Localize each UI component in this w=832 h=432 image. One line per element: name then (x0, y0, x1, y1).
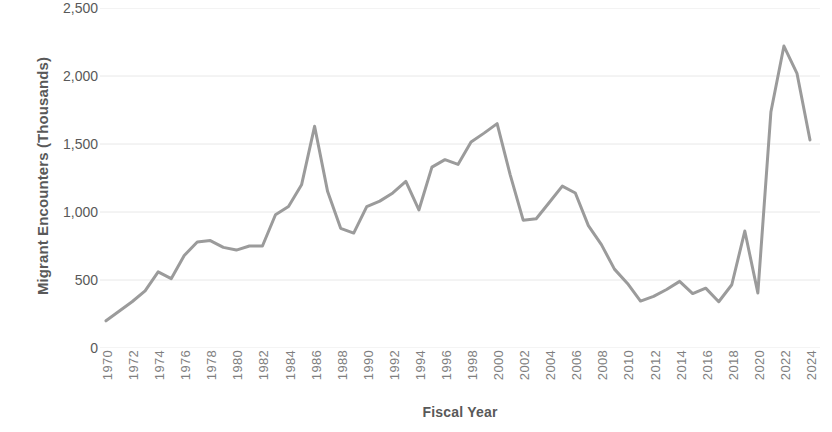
x-tick-label: 1988 (335, 350, 350, 380)
x-tick-label: 1978 (204, 350, 219, 380)
x-tick-label: 2002 (517, 350, 532, 380)
x-tick-label: 2024 (804, 350, 819, 380)
x-tick-label: 1998 (465, 350, 480, 380)
x-tick-label: 2000 (491, 350, 506, 380)
x-tick-label: 1972 (126, 350, 141, 380)
y-tick-label: 0 (28, 340, 98, 356)
x-tick-label: 1990 (361, 350, 376, 380)
y-axis-tick-labels: 05001,0001,5002,0002,500 (20, 0, 98, 432)
x-tick-label: 1984 (283, 350, 298, 380)
x-tick-label: 2006 (569, 350, 584, 380)
y-tick-label: 1,000 (28, 204, 98, 220)
x-tick-label: 2008 (595, 350, 610, 380)
line-chart: Migrant Encounters (Thousands) 05001,000… (0, 0, 832, 432)
x-tick-label: 1992 (387, 350, 402, 380)
x-tick-label: 1994 (413, 350, 428, 380)
y-tick-label: 500 (28, 272, 98, 288)
plot-area (100, 8, 820, 348)
y-tick-label: 1,500 (28, 136, 98, 152)
x-axis-title: Fiscal Year (100, 404, 820, 420)
x-tick-label: 1996 (439, 350, 454, 380)
x-tick-label: 1976 (178, 350, 193, 380)
x-tick-label: 1970 (100, 350, 115, 380)
x-tick-label: 2010 (621, 350, 636, 380)
x-tick-label: 2016 (700, 350, 715, 380)
x-tick-label: 2004 (543, 350, 558, 380)
y-tick-label: 2,500 (28, 0, 98, 16)
x-tick-label: 1974 (152, 350, 167, 380)
plot-svg (100, 8, 820, 348)
x-tick-label: 2022 (778, 350, 793, 380)
x-tick-label: 1982 (256, 350, 271, 380)
x-tick-label: 2018 (726, 350, 741, 380)
gridlines (100, 8, 820, 348)
x-axis-tick-labels: 1970197219741976197819801982198419861988… (100, 350, 820, 406)
x-tick-label: 1980 (230, 350, 245, 380)
x-tick-label: 2014 (674, 350, 689, 380)
x-tick-label: 2020 (752, 350, 767, 380)
y-tick-label: 2,000 (28, 68, 98, 84)
x-tick-label: 1986 (309, 350, 324, 380)
x-tick-label: 2012 (648, 350, 663, 380)
